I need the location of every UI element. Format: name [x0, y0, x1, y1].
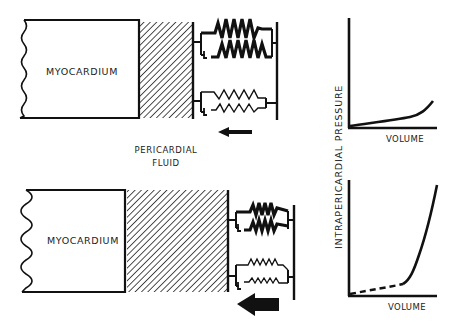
bottom-pressure-volume-graph [348, 180, 437, 296]
y-axis-label: INTRAPERICARDIAL PRESSURE [333, 85, 344, 249]
bottom-pericardial-fluid-hatch [127, 190, 228, 292]
bottom-curve-solid [403, 185, 437, 284]
top-myocardium-block: MYOCARDIUM [20, 20, 139, 118]
top-spring-dashpot-assembly [193, 19, 277, 120]
bottom-spring-dashpot-assembly [228, 203, 294, 300]
top-pressure-volume-graph [348, 18, 437, 128]
top-pericardial-fluid-hatch [140, 22, 193, 119]
pericardial-fluid-label-line2: FLUID [152, 158, 179, 168]
bottom-curve-dashed [350, 284, 403, 294]
bottom-myocardium-block: MYOCARDIUM [21, 190, 125, 292]
top-curve [350, 101, 433, 126]
bottom-myocardium-label: MYOCARDIUM [47, 235, 119, 246]
top-volume-label: VOLUME [386, 134, 424, 144]
pericardial-fluid-label-line1: PERICARDIAL [135, 145, 198, 155]
top-myocardium-label: MYOCARDIUM [46, 66, 118, 77]
pericardium-diagram: MYOCARDIUM PERICARDIAL FLUID MYOCARDIUM [0, 0, 461, 333]
bottom-volume-label: VOLUME [388, 302, 426, 312]
small-left-arrow-icon [218, 127, 252, 137]
large-left-arrow-icon [237, 293, 279, 316]
